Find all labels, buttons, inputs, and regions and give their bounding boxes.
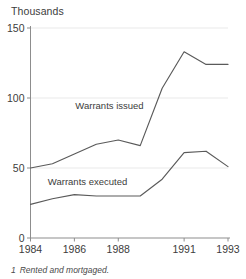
- y-tick-label-50: 50: [13, 162, 25, 174]
- chart-figure: Thousands 050100150 19841986198819911993…: [0, 0, 246, 279]
- series-annotations: Warrants issuedWarrants executed: [48, 100, 144, 187]
- x-tick-label-1986: 1986: [63, 243, 87, 255]
- y-tick-label-150: 150: [7, 22, 25, 34]
- gridlines: [31, 28, 229, 168]
- y-tick-label-0: 0: [19, 232, 25, 244]
- footnote: 1Rented and mortgaged.: [11, 265, 109, 275]
- annotation-warrants-issued: Warrants issued: [75, 100, 143, 111]
- x-tick-label-1984: 1984: [19, 243, 43, 255]
- footnote-marker: 1: [11, 265, 16, 275]
- annotation-warrants-executed: Warrants executed: [48, 176, 127, 187]
- footnote-text: Rented and mortgaged.: [20, 265, 109, 275]
- y-tick-label-100: 100: [7, 92, 25, 104]
- line-chart-canvas: 050100150 19841986198819911993 Warrants …: [0, 0, 246, 279]
- x-tick-label-1988: 1988: [107, 243, 131, 255]
- x-tick-label-1991: 1991: [172, 243, 196, 255]
- x-tick-label-1993: 1993: [216, 243, 240, 255]
- x-axis-ticks: 19841986198819911993: [19, 238, 240, 255]
- y-axis-ticks: 050100150: [7, 22, 31, 244]
